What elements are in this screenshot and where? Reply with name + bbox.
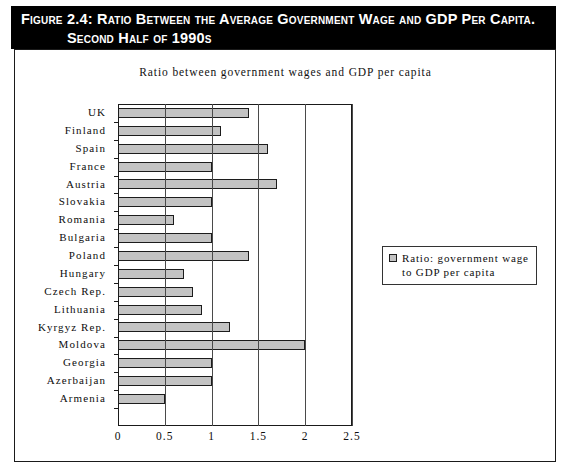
y-axis-tick	[114, 319, 118, 320]
bar-lithuania	[118, 305, 202, 315]
bar-row	[118, 372, 352, 390]
y-axis-tick	[114, 372, 118, 373]
figure-caption-line-2: Second Half of 1990s	[21, 29, 546, 48]
y-axis-tick	[114, 211, 118, 212]
x-axis-tick-label-1.5: 1.5	[250, 430, 267, 442]
y-axis-label-romania: Romania	[0, 211, 113, 229]
legend-entry-label-line-1: Ratio: government wage	[402, 252, 529, 264]
bar-row	[118, 158, 352, 176]
gridline-1	[212, 104, 213, 426]
x-axis-tick-label-2.5: 2.5	[343, 430, 360, 442]
y-axis-tick	[114, 390, 118, 391]
bar-czech-rep	[118, 287, 193, 297]
legend-swatch-icon	[389, 254, 397, 262]
y-axis-tick	[114, 301, 118, 302]
y-axis-tick	[114, 229, 118, 230]
gridline-2	[305, 104, 306, 426]
bar-kyrgyz-rep	[118, 322, 230, 332]
chart-legend: Ratio: government wage to GDP per capita	[382, 246, 537, 285]
y-axis-label-finland: Finland	[0, 122, 113, 140]
bar-armenia	[118, 394, 165, 404]
bar-row	[118, 193, 352, 211]
bar-spain	[118, 144, 268, 154]
bar-rows	[118, 104, 352, 426]
chart-title: Ratio between government wages and GDP p…	[0, 66, 571, 78]
bar-finland	[118, 126, 221, 136]
x-axis-tick-label-0.5: 0.5	[156, 430, 173, 442]
gridline-1.5	[258, 104, 259, 426]
figure-caption-banner: Figure 2.4: Ratio Between the Average Go…	[11, 6, 556, 49]
y-axis-tick	[114, 140, 118, 141]
y-axis-tick	[114, 247, 118, 248]
y-axis-label-france: France	[0, 158, 113, 176]
y-axis-tick	[114, 193, 118, 194]
gridline-0.5	[165, 104, 166, 426]
y-axis-label-slovakia: Slovakia	[0, 193, 113, 211]
y-axis-label-moldova: Moldova	[0, 336, 113, 354]
gridline-2.5	[352, 104, 353, 426]
bar-row	[118, 176, 352, 194]
bar-poland	[118, 251, 249, 261]
bar-row	[118, 390, 352, 408]
x-axis-tick-label-2: 2	[302, 430, 309, 442]
y-axis-tick	[114, 354, 118, 355]
bar-row	[118, 265, 352, 283]
y-axis-label-uk: UK	[0, 104, 113, 122]
bar-austria	[118, 179, 277, 189]
bar-row	[118, 140, 352, 158]
figure-page: Figure 2.4: Ratio Between the Average Go…	[0, 0, 571, 470]
y-axis-label-bulgaria: Bulgaria	[0, 229, 113, 247]
x-axis-tick-label-1: 1	[208, 430, 215, 442]
y-axis-tick	[114, 265, 118, 266]
bar-row	[118, 283, 352, 301]
legend-entry-label-line-2: to GDP per capita	[402, 266, 495, 278]
y-axis-label-azerbaijan: Azerbaijan	[0, 372, 113, 390]
x-axis-tick-label-0: 0	[115, 430, 122, 442]
y-axis-tick	[114, 337, 118, 338]
bar-row	[118, 301, 352, 319]
y-axis-label-poland: Poland	[0, 247, 113, 265]
y-axis-label-armenia: Armenia	[0, 390, 113, 408]
y-axis-labels: UKFinlandSpainFranceAustriaSlovakiaRoman…	[0, 104, 113, 426]
y-axis-label-czech-rep: Czech Rep.	[0, 283, 113, 301]
y-axis-label-lithuania: Lithuania	[0, 301, 113, 319]
bar-hungary	[118, 269, 184, 279]
y-axis-label-spain: Spain	[0, 140, 113, 158]
y-axis-label-kyrgyz-rep: Kyrgyz Rep.	[0, 319, 113, 337]
legend-entry: Ratio: government wage to GDP per capita	[389, 251, 529, 279]
y-axis-tick	[114, 158, 118, 159]
y-axis-label-hungary: Hungary	[0, 265, 113, 283]
bar-row	[118, 319, 352, 337]
bar-uk	[118, 108, 249, 118]
bar-row	[118, 354, 352, 372]
y-axis-tick	[114, 176, 118, 177]
x-axis-labels: 00.511.522.5	[0, 430, 571, 450]
y-axis-tick	[114, 408, 118, 409]
bar-row	[118, 211, 352, 229]
bar-row	[118, 229, 352, 247]
bar-row	[118, 336, 352, 354]
legend-entry-label: Ratio: government wage to GDP per capita	[402, 251, 529, 279]
y-axis-tick	[114, 122, 118, 123]
bar-row	[118, 247, 352, 265]
bar-row	[118, 104, 352, 122]
y-axis-label-austria: Austria	[0, 176, 113, 194]
y-axis-label-georgia: Georgia	[0, 354, 113, 372]
plot-area	[118, 104, 352, 426]
bar-row	[118, 122, 352, 140]
y-axis-tick	[114, 283, 118, 284]
figure-caption-line-1: Figure 2.4: Ratio Between the Average Go…	[21, 10, 546, 29]
